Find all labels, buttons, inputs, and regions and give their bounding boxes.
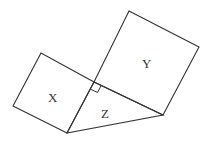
label-z: Z	[101, 106, 109, 121]
triangle-z	[67, 82, 163, 133]
label-x: X	[48, 90, 58, 105]
label-y: Y	[142, 56, 152, 71]
diagram-canvas: X Y Z	[0, 0, 215, 145]
